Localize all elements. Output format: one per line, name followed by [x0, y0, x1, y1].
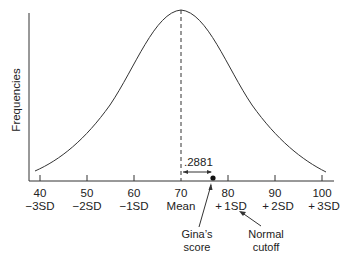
normal-curve-chart: .2881 40 50 60 70 80 90 100 −3SD −2SD −1… [0, 0, 349, 263]
gina-label-line1: Gina’s [182, 228, 213, 240]
svg-text:−3SD: −3SD [25, 200, 54, 212]
gina-label-line2: score [184, 241, 211, 253]
svg-text:50: 50 [81, 187, 94, 199]
svg-text:90: 90 [269, 187, 282, 199]
gina-score-dot [210, 175, 215, 180]
cutoff-label-line1: Normal [248, 228, 283, 240]
interval-arrowhead-right [207, 170, 212, 174]
svg-text:+ 2SD: + 2SD [262, 200, 293, 212]
svg-text:Mean: Mean [167, 200, 196, 212]
svg-text:100: 100 [312, 187, 331, 199]
x-tick-labels: 40 50 60 70 80 90 100 −3SD −2SD −1SD Mea… [25, 187, 339, 212]
svg-text:80: 80 [222, 187, 235, 199]
svg-text:−1SD: −1SD [119, 200, 148, 212]
interval-label: .2881 [184, 156, 213, 168]
interval-arrowhead-left [183, 170, 188, 174]
svg-text:60: 60 [128, 187, 141, 199]
svg-text:+ 3SD: + 3SD [308, 200, 339, 212]
svg-text:+ 1SD: + 1SD [215, 200, 246, 212]
svg-text:70: 70 [175, 187, 188, 199]
svg-text:−2SD: −2SD [72, 200, 101, 212]
cutoff-label-line2: cutoff [253, 241, 281, 253]
gina-pointer-line [199, 185, 211, 227]
y-axis-label: Frequencies [10, 68, 22, 132]
gina-pointer-arrowhead [209, 183, 213, 190]
svg-text:40: 40 [34, 187, 47, 199]
